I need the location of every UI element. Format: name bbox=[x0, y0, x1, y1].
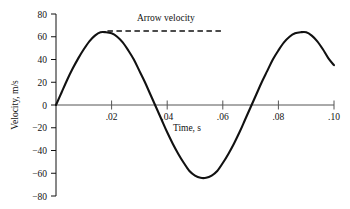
x-tick-label-006: .06 bbox=[217, 112, 229, 122]
x-axis-title: Time, s bbox=[173, 123, 201, 133]
y-tick-label-0: 0 bbox=[42, 101, 47, 111]
y-axis-title: Velocity, m/s bbox=[10, 80, 20, 130]
y-axis-tick-labels: 80 60 40 20 0 −20 −40 −60 −80 bbox=[32, 10, 47, 202]
y-tick-label-40: 40 bbox=[38, 55, 48, 65]
y-tick-label-neg40: −40 bbox=[32, 146, 47, 156]
x-tick-label-002: .02 bbox=[106, 112, 118, 122]
x-tick-label-010: .10 bbox=[328, 112, 340, 122]
arrow-velocity-annotation: Arrow velocity bbox=[137, 13, 195, 23]
chart-figure: 80 60 40 20 0 −20 −40 −60 −80 .02 .04 .0… bbox=[0, 0, 350, 209]
y-tick-label-80: 80 bbox=[38, 10, 48, 20]
x-axis-tick-labels: .02 .04 .06 .08 .10 bbox=[106, 112, 341, 122]
y-tick-label-20: 20 bbox=[38, 78, 48, 88]
x-tick-label-008: .08 bbox=[272, 112, 284, 122]
chart-plot-area: 80 60 40 20 0 −20 −40 −60 −80 .02 .04 .0… bbox=[0, 0, 350, 209]
y-tick-label-60: 60 bbox=[38, 32, 48, 42]
y-tick-label-neg20: −20 bbox=[32, 123, 47, 133]
y-tick-label-neg80: −80 bbox=[32, 192, 47, 202]
y-tick-label-neg60: −60 bbox=[32, 169, 47, 179]
